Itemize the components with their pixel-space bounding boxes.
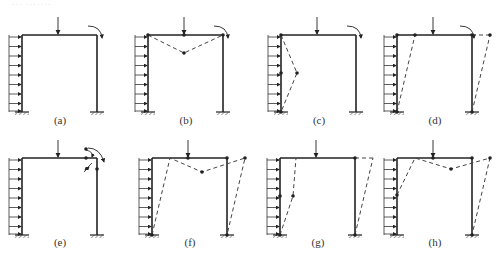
- panel-e: [9, 140, 104, 238]
- mechanism-figure: [0, 0, 501, 257]
- panel-d: [384, 17, 492, 115]
- label-e: (e): [45, 236, 75, 248]
- panel-h: [384, 140, 492, 238]
- panel-f: [139, 140, 247, 238]
- label-d: (d): [420, 114, 450, 126]
- label-f: (f): [175, 236, 205, 248]
- label-h: (h): [420, 236, 450, 248]
- label-c: (c): [304, 114, 334, 126]
- label-g: (g): [303, 236, 333, 248]
- label-b: (b): [171, 114, 201, 126]
- panel-b: [135, 17, 230, 115]
- label-a: (a): [45, 114, 75, 126]
- panel-a: [9, 17, 104, 115]
- panel-g: [267, 140, 373, 238]
- panel-c: [268, 17, 363, 115]
